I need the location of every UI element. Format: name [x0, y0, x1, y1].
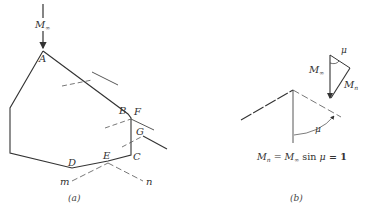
characteristic-line-m — [72, 163, 108, 181]
point-e-label: E — [102, 150, 111, 161]
mach-line-a-dashed — [62, 80, 92, 86]
point-c-label: C — [133, 151, 141, 162]
mu-label-top: μ — [341, 45, 347, 55]
line-m-label: m — [60, 176, 69, 187]
point-a-label: A — [38, 53, 46, 64]
figure-canvas: M∞ A B F G C D E m n (a) μ M∞ M — [0, 0, 365, 210]
panel-b-caption: (b) — [290, 193, 303, 203]
point-d-label: D — [67, 157, 76, 168]
panel-a: M∞ A B F G C D E m n (a) — [10, 4, 167, 203]
point-b-label: B — [118, 105, 126, 116]
left-mach-wave — [241, 90, 293, 120]
mach-line-g-dashed — [122, 136, 143, 147]
mu-arc-small-icon — [330, 61, 339, 64]
freestream-mach-label: M∞ — [34, 19, 50, 31]
body-outline — [10, 51, 131, 168]
mu-angle-arc-icon — [294, 116, 334, 135]
line-n-label: n — [146, 176, 152, 187]
point-g-label: G — [136, 126, 144, 137]
point-f-label: F — [133, 106, 142, 117]
panel-a-caption: (a) — [68, 193, 81, 203]
panel-b: μ M∞ Mn μ Mn = M∞ sin μ = 1 (b) — [241, 45, 358, 203]
triangle-top-edge — [330, 55, 350, 68]
mach-line-g-solid — [143, 136, 167, 149]
characteristic-line-n — [108, 163, 143, 181]
mach-line-a-solid — [92, 72, 118, 85]
mach-equation: Mn = M∞ sin μ = 1 — [256, 151, 347, 163]
m-n-label: Mn — [343, 79, 358, 91]
mach-line-f-dashed — [105, 119, 131, 128]
mu-angle-label: μ — [315, 124, 321, 134]
m-inf-label: M∞ — [308, 64, 324, 76]
